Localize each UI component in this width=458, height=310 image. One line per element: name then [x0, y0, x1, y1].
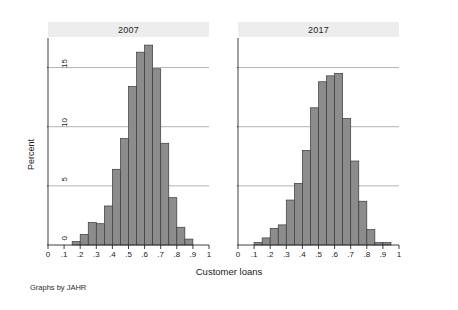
histogram-bar [302, 150, 310, 245]
histogram-bar [294, 183, 302, 245]
histogram-bar [367, 230, 375, 245]
graph-credit-note: Graphs by JAHR [30, 283, 86, 292]
y-tick-label: 15 [60, 59, 69, 77]
histogram-bar [270, 228, 278, 245]
y-axis-label: Percent [26, 139, 36, 170]
histogram-bar [335, 73, 343, 245]
histogram-bar [112, 169, 120, 245]
histogram-bar [153, 69, 161, 245]
histogram-bar [343, 118, 351, 245]
y-tick-label: 10 [60, 118, 69, 136]
histogram-bar [286, 200, 294, 245]
x-tick-label: 1 [200, 250, 218, 259]
histogram-bar [359, 201, 367, 245]
histogram-bar [120, 139, 128, 245]
histogram-bar [185, 239, 193, 245]
histogram-bar [137, 52, 145, 245]
histogram-bar [88, 223, 96, 245]
plot-area-2007 [47, 32, 210, 253]
y-tick-label: 0 [60, 236, 69, 254]
histogram-bar [169, 198, 177, 245]
y-tick-label: 5 [60, 177, 69, 195]
histogram-bar [72, 241, 80, 245]
x-tick-label: 1 [390, 250, 408, 259]
histogram-bar [104, 206, 112, 245]
histogram-bar [129, 86, 137, 245]
histogram-bar [351, 161, 359, 245]
histogram-bar [262, 238, 270, 245]
histogram-bar [96, 224, 104, 245]
histogram-bar [80, 234, 88, 245]
histogram-bar [327, 76, 335, 245]
histogram-bar [161, 143, 169, 245]
histogram-bar [310, 108, 318, 245]
plot-area-2017 [237, 32, 400, 253]
histogram-bar [145, 45, 153, 245]
x-axis-label: Customer loans [0, 266, 458, 277]
histogram-bar [319, 82, 327, 245]
histogram-bar [278, 225, 286, 245]
histogram-bar [177, 227, 185, 245]
histogram-figure: 20070.1.2.3.4.5.6.7.8.9120170.1.2.3.4.5.… [0, 0, 458, 310]
